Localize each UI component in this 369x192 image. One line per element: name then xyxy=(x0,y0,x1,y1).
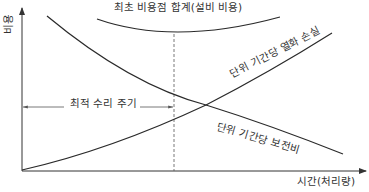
total-cost-curve xyxy=(97,17,280,32)
total-cost-label: 최초 비용점 합계(설비 비용) xyxy=(114,2,242,13)
x-axis-label: 시간(처리량) xyxy=(297,176,355,187)
optimal-period-label: 최적 수리 주기 xyxy=(67,98,140,109)
y-axis-label: 비용 xyxy=(3,14,14,34)
